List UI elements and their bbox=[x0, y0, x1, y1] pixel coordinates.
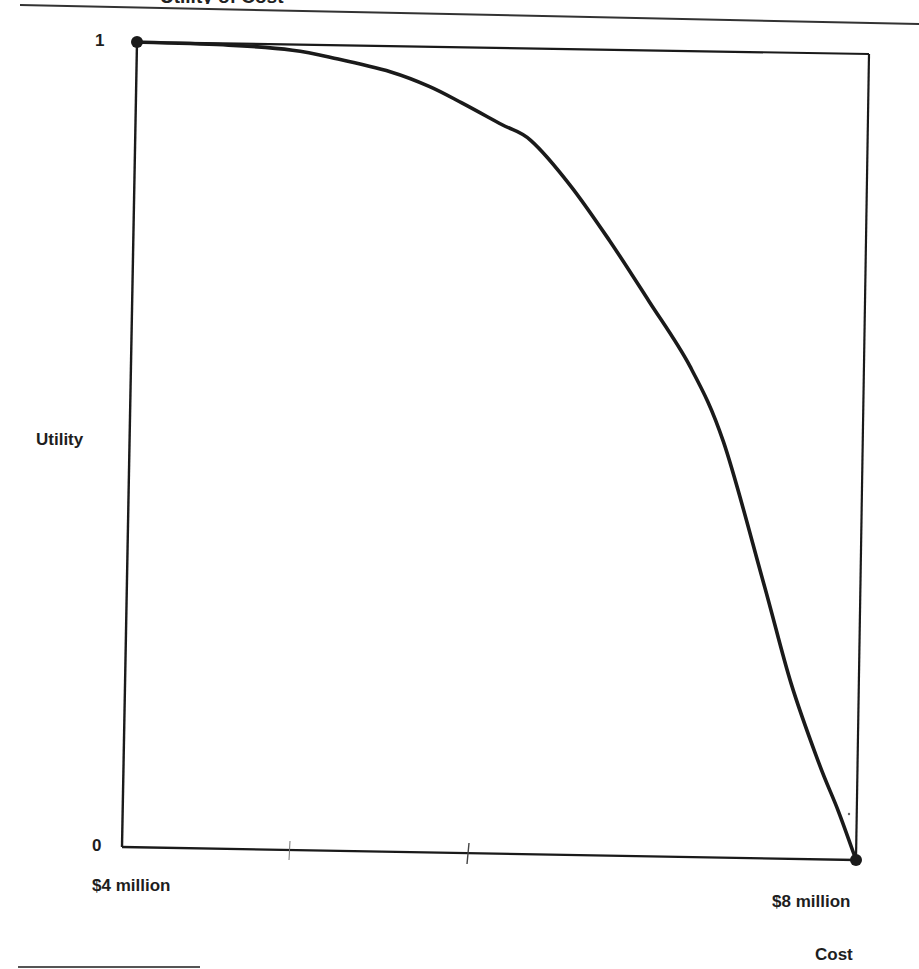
plot-top-border bbox=[137, 42, 869, 54]
utility-curve bbox=[137, 42, 856, 860]
plot-right-border bbox=[856, 54, 869, 860]
start-point-marker bbox=[131, 36, 143, 48]
utility-chart bbox=[0, 0, 919, 969]
top-divider bbox=[20, 5, 919, 24]
x-axis-label: Cost bbox=[815, 945, 853, 965]
y-tick-label-0: 0 bbox=[92, 836, 101, 856]
x-axis bbox=[122, 847, 856, 860]
x-tick-label-max: $8 million bbox=[772, 892, 850, 912]
scan-speck bbox=[848, 813, 850, 815]
end-point-marker bbox=[850, 854, 862, 866]
y-tick-label-1: 1 bbox=[95, 31, 104, 51]
x-tick-label-min: $4 million bbox=[92, 876, 170, 896]
x-minor-tick bbox=[289, 841, 290, 860]
y-axis-label: Utility bbox=[36, 430, 83, 450]
y-axis bbox=[122, 42, 137, 847]
x-minor-tick bbox=[467, 843, 469, 864]
